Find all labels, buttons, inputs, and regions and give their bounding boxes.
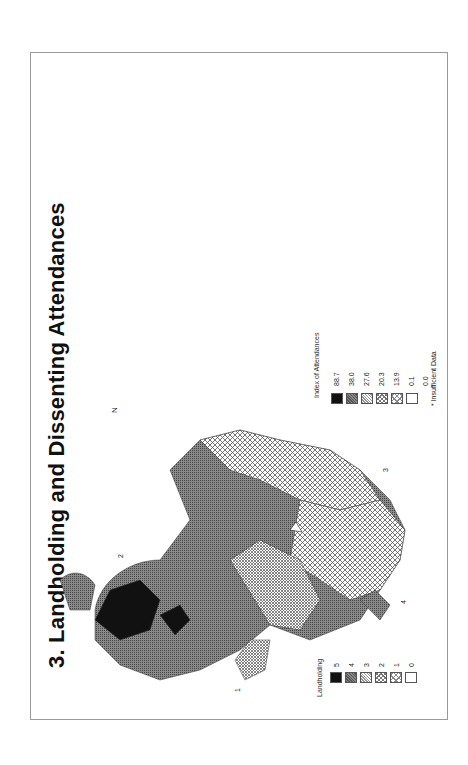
legend-swatch-20-3	[376, 393, 388, 404]
legend-label: 20.3	[378, 372, 385, 386]
legend-label: 13.9	[393, 372, 400, 386]
legend-label: 0.0	[422, 376, 429, 386]
legend-swatch-2	[375, 672, 387, 683]
north-arrow-label: N	[110, 407, 119, 413]
legend-swatch-0-0	[406, 393, 418, 404]
legend-label: 1	[393, 663, 400, 667]
legend-label: 2	[378, 663, 385, 667]
legend-swatch-0	[405, 672, 417, 683]
region-label-1: 1	[234, 688, 241, 692]
region-label-2: 2	[117, 554, 124, 558]
legend-swatch-27-6	[361, 393, 373, 404]
legend-label: 0	[408, 663, 415, 667]
legend-title: Index of Attendances	[313, 333, 320, 398]
legend-swatch-3	[360, 672, 372, 683]
legend-swatch-5	[330, 672, 342, 683]
legend-label: 3	[363, 663, 370, 667]
legend-label: 0.1	[408, 376, 415, 386]
legend-title: Landholding	[316, 659, 323, 697]
legend-label: 5	[333, 663, 340, 667]
legend-swatch-1	[390, 672, 402, 683]
legend-swatch-88-7	[331, 393, 343, 404]
region-label-4: 4	[400, 600, 407, 604]
insufficient-data-note: * Insufficient Data	[430, 351, 437, 406]
legend-swatch-13-9	[391, 393, 403, 404]
region-label-3: 3	[382, 468, 389, 472]
legend-label: 27.6	[363, 372, 370, 386]
legend-swatch-4	[345, 672, 357, 683]
legend-swatch-38-0	[346, 393, 358, 404]
legend-label: 88.7	[333, 372, 340, 386]
legend-label: 4	[348, 663, 355, 667]
landholding-map	[60, 430, 405, 680]
legend-label: 38.0	[348, 372, 355, 386]
